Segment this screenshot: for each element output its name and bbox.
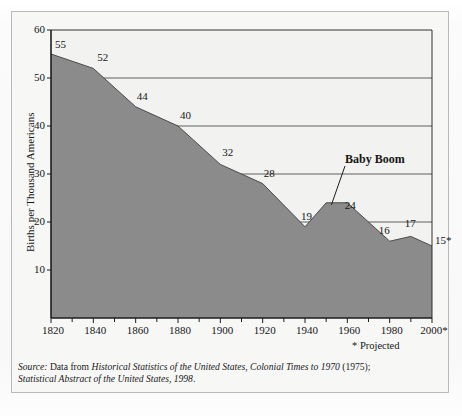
data-label: 32	[222, 146, 233, 158]
x-tick-label: 1860	[120, 324, 156, 336]
data-label: 55	[55, 38, 66, 50]
source-title-2: Statistical Abstract of the United State…	[18, 373, 193, 384]
source-lead: Data from	[47, 361, 91, 372]
y-tick-label: 50	[21, 71, 45, 83]
x-tick-label: 1980	[374, 324, 410, 336]
source-title-1: Historical Statistics of the United Stat…	[91, 361, 339, 372]
data-label: 44	[137, 90, 148, 102]
x-tick-label: 1880	[162, 324, 198, 336]
source-citation: Source: Data from Historical Statistics …	[18, 361, 428, 384]
data-label: 16	[379, 224, 390, 236]
x-tick-label: 1940	[289, 324, 325, 336]
y-tick-label: 60	[21, 23, 45, 35]
data-label: 40	[180, 109, 191, 121]
y-tick-label: 20	[21, 215, 45, 227]
birth-rate-area-chart	[0, 0, 462, 416]
x-tick-label: 1900	[204, 324, 240, 336]
data-label: 24	[345, 199, 356, 211]
data-label: 17	[405, 217, 416, 229]
x-tick-label: 1960	[331, 324, 367, 336]
data-label: 19	[301, 210, 312, 222]
y-tick-label: 30	[21, 167, 45, 179]
x-tick-label: 1920	[247, 324, 283, 336]
source-label: Source:	[18, 361, 47, 372]
source-tail-2: .	[193, 373, 195, 384]
y-axis-title: Births per Thousand Americans	[24, 113, 36, 252]
x-tick-label: 1820	[35, 324, 71, 336]
baby-boom-annotation: Baby Boom	[345, 152, 405, 167]
projected-footnote: * Projected	[352, 340, 400, 351]
source-tail-1: (1975);	[340, 361, 371, 372]
chart-page: Births per Thousand Americans 1020304050…	[0, 0, 462, 416]
data-label: 52	[97, 51, 108, 63]
data-label: 28	[264, 167, 275, 179]
y-tick-label: 40	[21, 119, 45, 131]
y-tick-label: 10	[21, 263, 45, 275]
x-tick-label: 2000*	[416, 324, 452, 336]
x-tick-label: 1840	[77, 324, 113, 336]
data-label: 15*	[435, 234, 452, 246]
